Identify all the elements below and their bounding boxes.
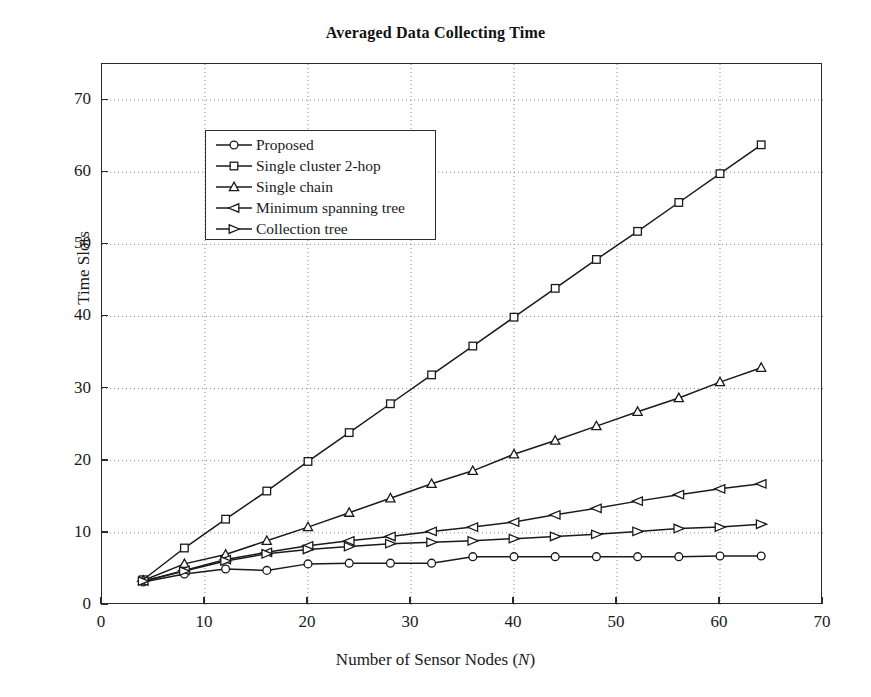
chart-title: Averaged Data Collecting Time — [0, 24, 871, 42]
legend-marker-circle-icon — [212, 136, 256, 154]
y-tick-label: 70 — [51, 89, 91, 109]
x-tick-label: 70 — [814, 612, 831, 632]
y-tick-mark — [101, 315, 108, 316]
legend-label: Single chain — [256, 178, 333, 196]
x-tick-mark — [718, 597, 719, 604]
legend-item-proposed: Proposed — [212, 134, 435, 155]
x-axis-title-variable: N — [518, 650, 529, 669]
y-tick-label: 30 — [51, 378, 91, 398]
legend-marker-triangle-left-icon — [212, 199, 256, 217]
x-tick-mark — [615, 597, 616, 604]
y-tick-mark — [101, 99, 108, 100]
chart-figure: Averaged Data Collecting Time ProposedSi… — [0, 0, 871, 697]
x-tick-label: 20 — [299, 612, 316, 632]
legend-label: Proposed — [256, 136, 314, 154]
x-tick-label: 50 — [608, 612, 625, 632]
legend-marker-square-icon — [212, 157, 256, 175]
legend-marker-triangle-right-icon — [212, 220, 256, 238]
y-tick-mark — [101, 243, 108, 244]
plot-area: ProposedSingle cluster 2-hopSingle chain… — [101, 63, 822, 604]
x-axis-title: Number of Sensor Nodes (N) — [0, 650, 871, 670]
y-tick-mark — [101, 604, 108, 605]
x-tick-mark — [100, 597, 101, 604]
legend-item-collection-tree: Collection tree — [212, 218, 435, 239]
x-tick-mark — [409, 597, 410, 604]
x-tick-label: 30 — [402, 612, 419, 632]
y-tick-mark — [101, 387, 108, 388]
x-tick-mark — [821, 597, 822, 604]
x-axis-title-text: Number of Sensor Nodes ( — [336, 650, 518, 669]
legend-label: Single cluster 2-hop — [256, 157, 381, 175]
x-tick-label: 60 — [711, 612, 728, 632]
y-tick-label: 20 — [51, 450, 91, 470]
x-tick-mark — [512, 597, 513, 604]
x-tick-label: 0 — [97, 612, 106, 632]
x-tick-label: 40 — [505, 612, 522, 632]
legend-label: Minimum spanning tree — [256, 199, 405, 217]
legend-item-single-chain: Single chain — [212, 176, 435, 197]
y-tick-mark — [101, 531, 108, 532]
chart-legend: ProposedSingle cluster 2-hopSingle chain… — [205, 130, 436, 240]
y-tick-mark — [101, 459, 108, 460]
y-tick-mark — [101, 171, 108, 172]
y-tick-label: 0 — [51, 594, 91, 614]
legend-item-minimum-spanning-tree: Minimum spanning tree — [212, 197, 435, 218]
legend-item-single-cluster-2-hop: Single cluster 2-hop — [212, 155, 435, 176]
y-tick-label: 10 — [51, 522, 91, 542]
legend-label: Collection tree — [256, 220, 348, 238]
y-axis-title: Time Slots — [74, 178, 94, 358]
x-tick-label: 10 — [196, 612, 213, 632]
x-tick-mark — [203, 597, 204, 604]
legend-marker-triangle-up-icon — [212, 178, 256, 196]
x-axis-title-tail: ) — [529, 650, 535, 669]
x-tick-mark — [306, 597, 307, 604]
